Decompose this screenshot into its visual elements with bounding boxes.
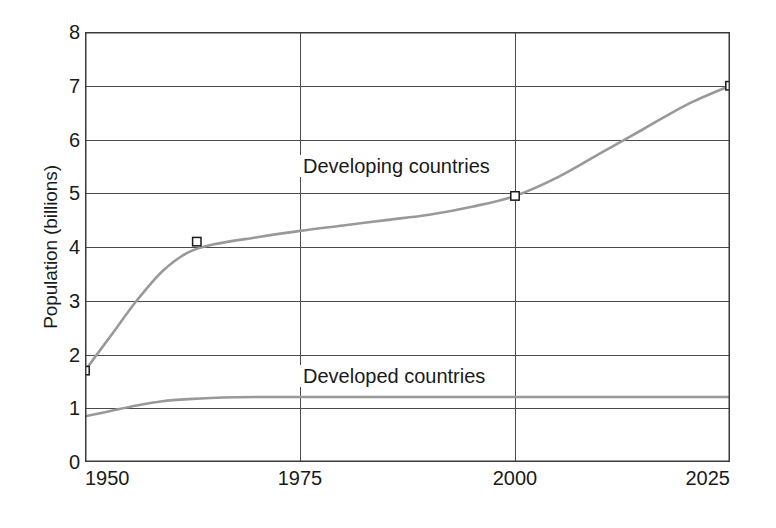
x-tick-label: 2025 [686,468,731,488]
x-axis-tick-labels: 1950197520002025 [85,468,730,498]
series-line [85,86,730,371]
x-tick-label: 1950 [85,468,130,488]
y-tick-label: 5 [69,183,80,203]
y-tick-label: 8 [69,22,80,42]
series-label-developing: Developing countries [300,155,493,177]
y-axis-tick-labels: 012345678 [40,32,80,462]
population-line-chart: Population (billions) 012345678 Developi… [0,0,776,528]
y-tick-label: 6 [69,130,80,150]
series-line [85,397,730,416]
y-tick-label: 4 [69,237,80,257]
y-tick-label: 7 [69,76,80,96]
plot-area [85,32,730,462]
y-tick-label: 1 [69,398,80,418]
y-tick-label: 2 [69,345,80,365]
y-tick-label: 0 [69,452,80,472]
x-tick-label: 1975 [278,468,323,488]
y-tick-label: 3 [69,291,80,311]
data-point-marker [511,192,519,200]
data-point-marker [193,237,201,245]
data-point-markers [85,82,730,375]
x-tick-label: 2000 [493,468,538,488]
series-label-developed: Developed countries [300,365,488,387]
